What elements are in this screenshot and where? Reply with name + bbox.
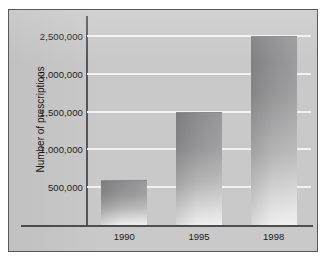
bar-shading [251,37,297,225]
y-axis-title: Number of prescriptions [35,45,46,195]
chart-panel: 500,0001,000,0001,500,0002,000,0002,500,… [8,9,318,252]
y-axis-tick-label: 2,500,000 [40,30,83,41]
x-axis-line [21,225,313,227]
y-axis-tick-label: 500,000 [48,182,83,193]
y-axis-tick-labels: 500,0001,000,0001,500,0002,000,0002,500,… [9,10,83,252]
x-axis-tick-label: 1990 [114,231,135,242]
bar [101,180,147,225]
bar [176,112,222,225]
y-axis-tick-label: 1,000,000 [40,144,83,155]
x-axis-tick-label: 1998 [263,231,284,242]
y-axis-tick-label: 2,000,000 [40,68,83,79]
x-axis-tick-label: 1995 [188,231,209,242]
bar [251,36,297,225]
y-axis-tick-label: 1,500,000 [40,106,83,117]
bar-shading [101,181,147,225]
bar-shading [176,113,222,225]
plot-area [87,17,311,225]
figure: 500,0001,000,0001,500,0002,000,0002,500,… [0,0,330,266]
